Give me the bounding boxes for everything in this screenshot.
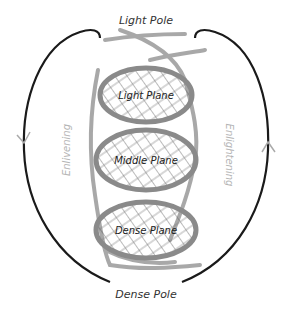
dense-plane-label: Dense Plane: [115, 225, 177, 236]
enlightening-label: Enlightening: [224, 124, 235, 187]
enlivening-label: Enlivening: [61, 124, 72, 176]
dense-pole-label: Dense Pole: [115, 288, 177, 301]
middle-plane-label: Middle Plane: [114, 155, 178, 166]
light-pole-label: Light Pole: [119, 14, 173, 27]
light-plane-label: Light Plane: [118, 90, 174, 101]
plane-diagram: Light Pole Dense Pole Light Plane Middle…: [0, 0, 291, 312]
